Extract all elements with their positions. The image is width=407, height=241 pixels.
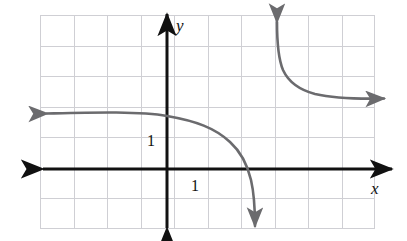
- x-axis-label: x: [370, 179, 379, 198]
- x-unit-tick-label: 1: [191, 177, 199, 194]
- coordinate-plane-svg: y x 1 1: [0, 0, 407, 241]
- y-axis-label: y: [174, 16, 184, 35]
- graph-figure: y x 1 1: [0, 0, 407, 241]
- y-unit-tick-label: 1: [147, 132, 155, 149]
